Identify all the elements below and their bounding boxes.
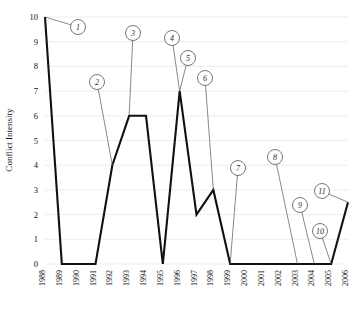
callout-number-label: 1 <box>76 23 80 32</box>
x-tick-label: 1991 <box>89 270 98 286</box>
y-tick-label: 9 <box>34 37 38 47</box>
y-tick-label: 1 <box>34 234 38 244</box>
x-tick-label: 2003 <box>291 270 300 286</box>
x-tick-label: 1998 <box>206 270 215 286</box>
x-tick-label: 1989 <box>55 270 64 286</box>
callout-number-label: 4 <box>170 34 174 43</box>
y-tick-label: 2 <box>34 210 38 220</box>
y-tick-label: 7 <box>34 86 38 96</box>
y-tick-label: 6 <box>34 111 38 121</box>
x-tick-label: 1995 <box>156 270 165 286</box>
x-tick-label: 2004 <box>307 270 316 286</box>
y-tick-label: 10 <box>30 12 39 22</box>
x-tick-label: 2006 <box>341 270 350 286</box>
x-tick-label: 1992 <box>105 270 114 286</box>
x-tick-label: 2005 <box>324 270 333 286</box>
x-tick-label: 1988 <box>38 270 47 286</box>
y-tick-label: 5 <box>34 136 38 146</box>
chart-canvas: 012345678910 198819891990199119921993199… <box>0 0 362 316</box>
y-tick-label: 3 <box>34 185 38 195</box>
x-tick-label: 1999 <box>223 270 232 286</box>
x-tick-label: 1994 <box>139 270 148 286</box>
x-tick-label: 2002 <box>274 270 283 286</box>
x-tick-label: 1996 <box>173 270 182 286</box>
y-axis-title: Conflict Intensity <box>4 108 14 172</box>
callout-number-label: 8 <box>273 153 277 162</box>
x-tick-label: 1990 <box>72 270 81 286</box>
callout-number-label: 5 <box>186 54 190 63</box>
conflict-intensity-line-chart: 012345678910 198819891990199119921993199… <box>0 0 362 316</box>
y-tick-label: 8 <box>34 61 38 71</box>
callout-number-label: 10 <box>316 227 324 236</box>
y-axis-title-label: Conflict Intensity <box>4 108 14 172</box>
callout-number-label: 11 <box>318 187 325 196</box>
x-tick-label: 1997 <box>190 270 199 286</box>
x-tick-label: 2001 <box>257 270 266 286</box>
callout-number-label: 9 <box>298 201 302 210</box>
x-tick-label: 2000 <box>240 270 249 286</box>
x-tick-label: 1993 <box>122 270 131 286</box>
callout-number-label: 3 <box>130 29 135 38</box>
callout-number-label: 6 <box>203 74 207 83</box>
callout-number-label: 2 <box>95 78 99 87</box>
y-tick-label: 0 <box>34 259 38 269</box>
